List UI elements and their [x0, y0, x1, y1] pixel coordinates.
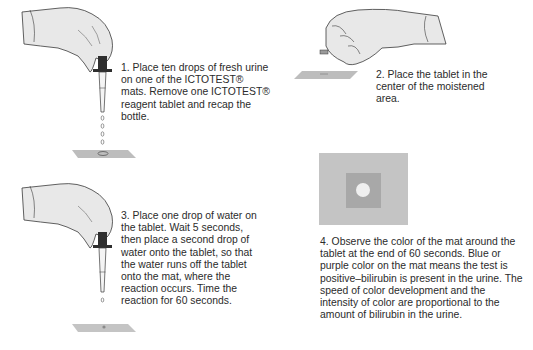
tablet	[356, 183, 370, 197]
gloved-hand-dropper-icon	[0, 0, 140, 170]
step-2-text: 2. Place the tablet in the center of the…	[376, 69, 506, 106]
step-4-text: 4. Observe the color of the mat around t…	[320, 236, 525, 321]
mat-icon	[292, 69, 362, 83]
mat-top-view	[319, 153, 408, 225]
gloved-hand-dropper-icon	[0, 180, 140, 310]
mat-icon	[68, 322, 138, 336]
step-3-text: 3. Place one drop of water on the tablet…	[121, 210, 261, 308]
color-ring-area	[346, 173, 381, 208]
mat-icon	[68, 148, 138, 162]
gloved-hand-tablet-icon	[318, 6, 458, 66]
step-1-text: 1. Place ten drops of fresh urine on one…	[121, 62, 271, 123]
